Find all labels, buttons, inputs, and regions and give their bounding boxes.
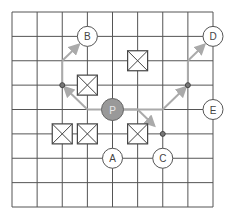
path-arrow (163, 87, 186, 109)
path-arrow (188, 45, 205, 61)
player-node: P (102, 99, 124, 121)
grid-diagram: ABCDE P (0, 0, 231, 214)
target-node-d: D (203, 26, 223, 46)
obstacle-box (52, 124, 72, 144)
waypoint-dot (160, 131, 165, 136)
path-arrow (62, 45, 79, 61)
target-node-c: C (153, 148, 173, 168)
target-label: A (109, 153, 116, 164)
waypoint-dot (60, 83, 65, 88)
obstacle-box (128, 124, 148, 144)
obstacle-box (128, 51, 148, 71)
target-label: C (159, 153, 166, 164)
waypoint-dot (185, 83, 190, 88)
obstacle-box (77, 124, 97, 144)
obstacle-box (77, 75, 97, 95)
target-label: D (209, 31, 216, 42)
target-node-e: E (203, 100, 223, 120)
path-arrow (138, 110, 155, 126)
path-to-d (113, 45, 205, 110)
obstacle-layer (52, 51, 147, 144)
target-node-b: B (77, 26, 97, 46)
target-label: E (210, 105, 217, 116)
target-node-a: A (103, 148, 123, 168)
player-layer: P (102, 99, 124, 121)
target-label: B (84, 31, 91, 42)
player-label: P (109, 105, 116, 116)
